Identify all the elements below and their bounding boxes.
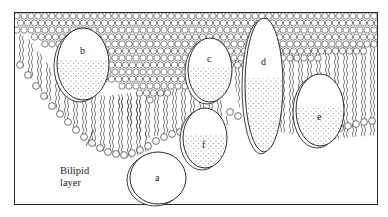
protein-label-e: e bbox=[317, 112, 321, 122]
membrane-diagram: abcdef Bilipid layer bbox=[0, 0, 388, 217]
bilipid-layer-caption: Bilipid layer bbox=[60, 165, 89, 189]
caption-line-2: layer bbox=[60, 177, 89, 189]
protein-label-a: a bbox=[155, 173, 159, 183]
protein-c bbox=[185, 38, 232, 105]
caption-line-1: Bilipid bbox=[60, 165, 89, 177]
protein-label-b: b bbox=[80, 46, 85, 56]
protein-d bbox=[242, 18, 283, 159]
protein-label-d: d bbox=[261, 57, 266, 67]
protein-label-f: f bbox=[202, 140, 205, 150]
protein-label-c: c bbox=[207, 54, 211, 64]
protein-b bbox=[54, 28, 109, 104]
membrane-illustration bbox=[0, 0, 388, 217]
